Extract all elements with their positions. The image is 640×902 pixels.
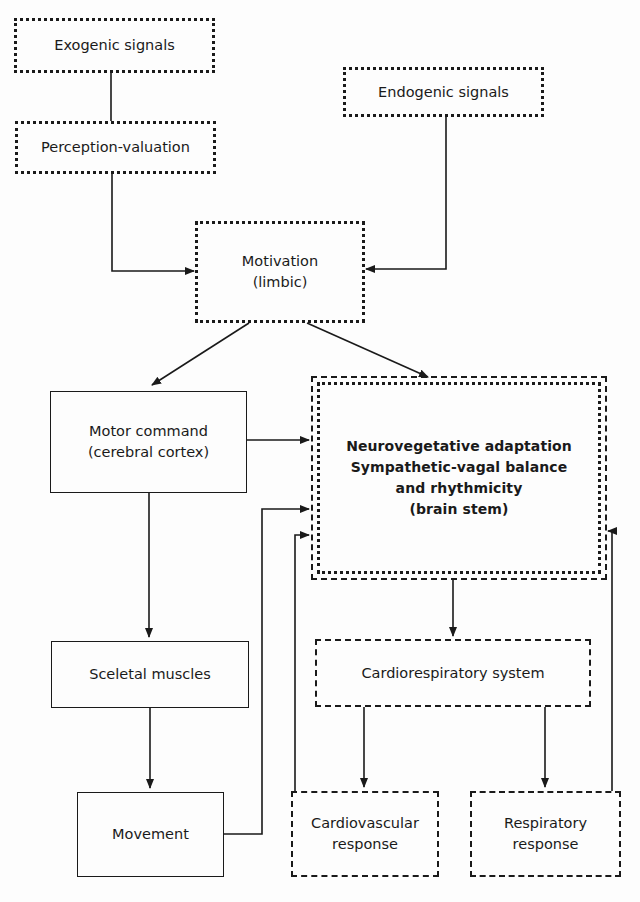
node-label: response bbox=[513, 834, 579, 855]
node-exogenic-signals: Exogenic signals bbox=[14, 18, 215, 73]
node-cardiorespiratory-system: Cardiorespiratory system bbox=[315, 639, 591, 707]
node-label: (limbic) bbox=[253, 272, 308, 293]
node-respiratory-response: Respiratory response bbox=[470, 791, 621, 877]
node-label: Motor command bbox=[89, 421, 208, 442]
node-label: and rhythmicity bbox=[396, 478, 523, 499]
node-label: response bbox=[332, 834, 398, 855]
node-label: Motivation bbox=[242, 251, 318, 272]
node-label: Endogenic signals bbox=[378, 82, 509, 103]
node-label: Exogenic signals bbox=[54, 35, 175, 56]
edge-motivation-neuro bbox=[307, 323, 428, 377]
node-cardiovascular-response: Cardiovascular response bbox=[291, 791, 439, 877]
node-label: Respiratory bbox=[504, 813, 587, 834]
node-label: (cerebral cortex) bbox=[88, 442, 209, 463]
node-perception-valuation: Perception-valuation bbox=[15, 121, 216, 174]
node-motor-command: Motor command (cerebral cortex) bbox=[50, 391, 247, 493]
node-endogenic-signals: Endogenic signals bbox=[343, 67, 544, 117]
node-label: Sceletal muscles bbox=[89, 664, 211, 685]
node-label: Movement bbox=[112, 824, 189, 845]
node-label: (brain stem) bbox=[409, 499, 508, 520]
edge-motivation-motor bbox=[152, 323, 249, 385]
edge-endogenic-motivation bbox=[366, 116, 446, 269]
node-neurovegetative-inner: Neurovegetative adaptation Sympathetic-v… bbox=[317, 382, 601, 574]
node-neurovegetative-adaptation: Neurovegetative adaptation Sympathetic-v… bbox=[311, 376, 607, 580]
diagram-canvas: Exogenic signals Perception-valuation En… bbox=[0, 0, 640, 902]
node-movement: Movement bbox=[77, 792, 224, 877]
node-label: Sympathetic-vagal balance bbox=[351, 457, 568, 478]
edge-respiratory-neuro bbox=[608, 531, 612, 791]
node-motivation: Motivation (limbic) bbox=[195, 221, 365, 323]
node-label: Cardiorespiratory system bbox=[361, 663, 544, 684]
node-label: Perception-valuation bbox=[41, 137, 190, 158]
edge-cardiovascular-neuro bbox=[295, 535, 309, 791]
node-label: Neurovegetative adaptation bbox=[346, 436, 572, 457]
edge-perception-motivation bbox=[112, 173, 194, 271]
node-sceletal-muscles: Sceletal muscles bbox=[51, 641, 249, 708]
node-label: Cardiovascular bbox=[311, 813, 419, 834]
